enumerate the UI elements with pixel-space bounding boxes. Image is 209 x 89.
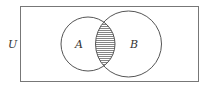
set-a-label: A <box>74 38 83 51</box>
set-b-label: B <box>129 38 138 51</box>
venn-diagram: U A B <box>0 0 209 89</box>
universe-label: U <box>8 38 18 51</box>
